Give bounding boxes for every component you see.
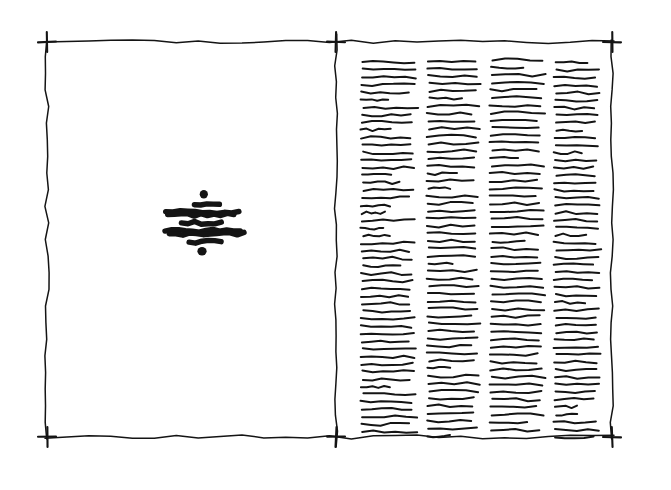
text-line xyxy=(428,61,476,62)
text-line xyxy=(363,144,411,145)
text-line xyxy=(556,145,598,146)
bottom-right-crosshair-vertical xyxy=(612,427,613,447)
text-line xyxy=(554,347,598,348)
text-line xyxy=(427,217,476,218)
text-line xyxy=(490,142,539,143)
text-line xyxy=(429,187,451,189)
emblem-row-2-stroke-1 xyxy=(194,204,219,205)
text-line xyxy=(363,348,416,349)
text-line xyxy=(492,127,538,128)
text-line xyxy=(554,183,595,184)
gutter-top-crosshair-vertical xyxy=(336,32,337,52)
text-line xyxy=(555,384,599,385)
text-line xyxy=(429,121,475,122)
text-line xyxy=(361,159,411,160)
text-line xyxy=(490,196,536,197)
text-line xyxy=(362,341,409,343)
text-line xyxy=(556,354,600,355)
text-line xyxy=(491,120,537,121)
emblem-row-5-stroke-2 xyxy=(169,232,244,235)
text-line xyxy=(490,157,518,158)
text-line xyxy=(556,197,599,199)
text-line xyxy=(556,318,595,319)
text-line xyxy=(427,367,450,368)
text-line xyxy=(490,384,543,386)
text-line xyxy=(490,422,527,423)
text-line xyxy=(429,247,475,249)
text-line xyxy=(428,412,474,414)
text-line xyxy=(557,249,602,250)
text-line xyxy=(429,360,474,362)
sketch-page: Hand-drawn book spread layout sketch bla… xyxy=(0,0,671,490)
text-line xyxy=(555,204,599,206)
text-line xyxy=(362,174,391,175)
emblem-row-7 xyxy=(197,247,206,255)
text-line xyxy=(490,406,536,408)
emblem-row-3-stroke-2 xyxy=(168,213,234,216)
text-line xyxy=(363,69,416,70)
emblem-row-1 xyxy=(200,190,208,198)
sketch-canvas xyxy=(0,0,671,490)
text-line xyxy=(557,114,598,115)
text-line xyxy=(554,264,593,265)
text-line xyxy=(556,324,596,325)
emblem-row-6-stroke-1 xyxy=(189,240,221,243)
text-line xyxy=(361,325,411,327)
gutter-bottom-crosshair-vertical xyxy=(336,427,337,447)
emblem-row-4-stroke-1 xyxy=(181,221,221,224)
text-line xyxy=(554,85,597,87)
